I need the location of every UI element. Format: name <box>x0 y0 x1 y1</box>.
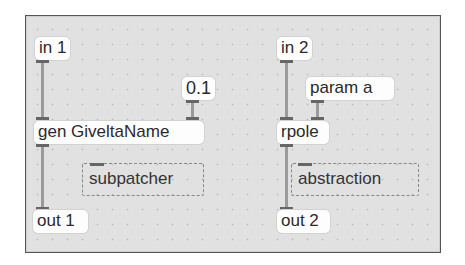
outlet-port[interactable] <box>36 60 49 63</box>
param-object[interactable]: param a <box>306 77 394 100</box>
outlet-object-out2[interactable]: out 2 <box>277 210 330 233</box>
object-label: out 2 <box>281 211 319 230</box>
object-label: in 1 <box>39 38 66 57</box>
subpatcher-object[interactable]: subpatcher <box>82 163 204 196</box>
object-label: in 2 <box>281 38 308 57</box>
number-value: 0.1 <box>186 78 211 98</box>
inlet-port[interactable] <box>311 117 324 120</box>
cord-in1-to-gen[interactable] <box>41 60 44 120</box>
inlet-port[interactable] <box>36 117 49 120</box>
outlet-port[interactable] <box>280 60 293 63</box>
inlet-port[interactable] <box>298 163 312 166</box>
outlet-object-out1[interactable]: out 1 <box>33 210 88 233</box>
inlet-object-in2[interactable]: in 2 <box>277 37 312 60</box>
outlet-port[interactable] <box>36 144 49 147</box>
outlet-port[interactable] <box>186 100 199 103</box>
object-label: gen GiveltaName <box>38 122 169 141</box>
cord-gen-to-out1[interactable] <box>41 146 44 208</box>
object-label: param a <box>310 78 372 97</box>
inlet-object-in1[interactable]: in 1 <box>35 37 70 60</box>
outlet-port[interactable] <box>280 144 293 147</box>
cord-rpole-to-out2[interactable] <box>285 146 288 208</box>
number-box-0.1[interactable]: 0.1 <box>182 77 215 100</box>
object-label: rpole <box>281 122 319 141</box>
cord-in2-to-rpole[interactable] <box>285 60 288 120</box>
object-label: abstraction <box>298 169 381 188</box>
inlet-port[interactable] <box>90 163 104 166</box>
inlet-port[interactable] <box>186 117 199 120</box>
rpole-object[interactable]: rpole <box>277 121 329 144</box>
abstraction-object[interactable]: abstraction <box>291 163 419 196</box>
gen-object[interactable]: gen GiveltaName <box>34 121 204 144</box>
object-label: out 1 <box>37 211 75 230</box>
outlet-port[interactable] <box>311 100 324 103</box>
object-label: subpatcher <box>89 169 173 188</box>
inlet-port[interactable] <box>280 117 293 120</box>
